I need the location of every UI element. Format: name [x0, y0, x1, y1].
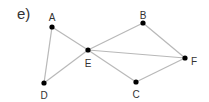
nodes: ABCDEF: [40, 10, 197, 101]
node-label-E: E: [85, 58, 92, 69]
node-label-F: F: [191, 56, 197, 67]
edge-B-F: [143, 23, 185, 58]
edge-D-E: [44, 50, 88, 83]
edges: [44, 23, 185, 83]
edge-E-C: [88, 50, 136, 82]
edge-A-D: [44, 27, 52, 83]
edge-E-B: [88, 23, 143, 50]
edge-E-F: [88, 50, 185, 58]
node-A: [49, 24, 54, 29]
node-E: [85, 47, 90, 52]
node-F: [182, 55, 187, 60]
node-label-B: B: [140, 10, 147, 21]
node-label-D: D: [40, 90, 47, 101]
node-C: [133, 79, 138, 84]
node-D: [41, 80, 46, 85]
node-B: [140, 20, 145, 25]
node-label-C: C: [132, 89, 139, 100]
graph-diagram: ABCDEF: [0, 0, 209, 102]
edge-C-F: [136, 58, 185, 82]
node-label-A: A: [49, 12, 56, 23]
edge-A-E: [52, 27, 88, 50]
